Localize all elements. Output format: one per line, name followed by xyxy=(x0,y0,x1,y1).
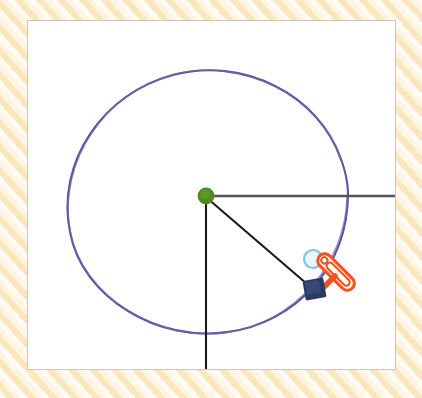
screenshot-stage: Geometry Sketch Canvas xyxy=(0,0,422,398)
drawing-canvas[interactable] xyxy=(27,20,396,370)
page-title: Geometry Sketch Canvas xyxy=(0,0,1,1)
